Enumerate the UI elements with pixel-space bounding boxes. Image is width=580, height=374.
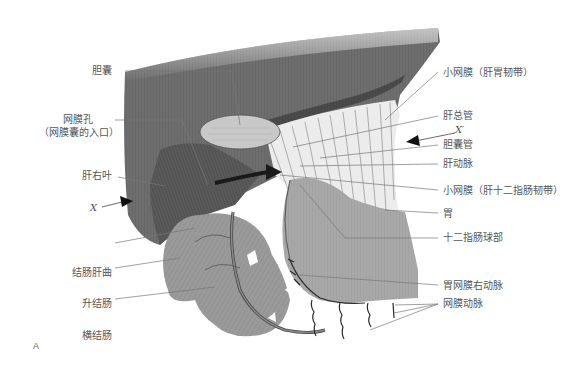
label-hepatic-flexure: 结肠肝曲 [72,267,112,279]
label-right-gastroepiploic-artery: 胃网膜右动脉 [443,280,503,292]
label-ascending-colon: 升结肠 [82,298,112,310]
panel-label: A [33,341,39,351]
label-x: X [90,202,97,214]
gallbladder-shape [200,115,280,149]
anatomy-figure: 胆囊 网膜孔 （网膜囊的入口） 肝右叶 X 结肠肝曲 升结肠 横结肠 A 小网膜… [0,0,580,374]
label-epiploic-arteries: 网膜动脉 [443,298,483,310]
label-cystic-duct: 胆囊管 [443,139,473,151]
label-epiploic-foramen-sub: （网膜囊的入口） [34,127,124,139]
label-hepatoduodenal-ligament: 小网膜（肝十二指肠韧带） [443,185,563,197]
label-right-lobe-liver: 肝右叶 [82,170,112,182]
label-gallbladder: 胆囊 [92,65,112,77]
label-duodenal-bulb: 十二指肠球部 [443,232,503,244]
label-common-hepatic-duct: 肝总管 [443,110,473,122]
label-transverse-colon: 横结肠 [82,330,112,342]
label-hepatogastric-ligament: 小网膜（肝胃韧带） [443,67,533,79]
label-epiploic-foramen: 网膜孔 [38,114,118,126]
label-stomach: 胃 [443,208,453,220]
label-hepatic-artery: 肝动脉 [443,158,473,170]
label-x-prime: X′ [455,124,464,136]
